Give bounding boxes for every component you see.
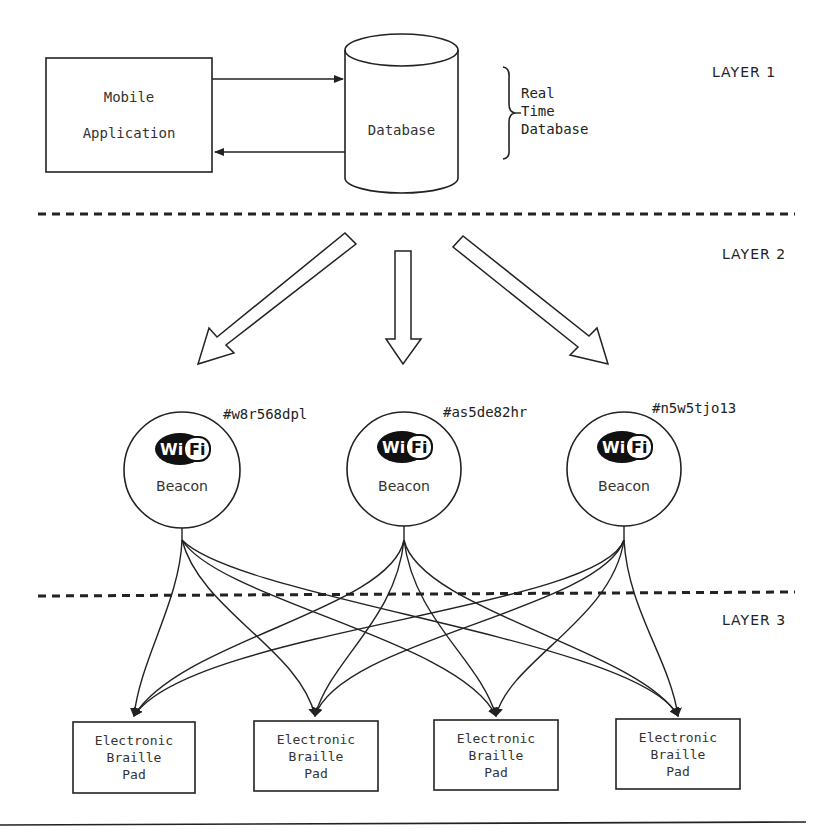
block-arrow-center [386,251,421,364]
brace-label-line3: Database [521,120,588,138]
mobile-app-line1: Mobile [104,79,155,115]
brace-label-line2: Time [521,102,588,120]
brace-label-line1: Real [521,84,588,102]
layer-1-label: LAYER 1 [712,64,776,80]
mobile-application-label: Mobile Application [46,58,212,172]
wifi-icon: Wi Fi [154,432,216,466]
beacon-pad-connections [134,526,678,716]
wifi-icon: Wi Fi [376,430,438,464]
braille-pad-4: Electronic Braille Pad [616,719,740,789]
beacon-id-2: #as5de82hr [443,404,527,420]
beacon-id-1: #w8r568dpl [223,406,307,422]
bottom-rule [0,822,806,825]
beacon-circle-1 [124,412,240,528]
braille-pad-2: Electronic Braille Pad [254,721,378,791]
mobile-app-line2: Application [83,115,176,151]
braille-pad-3: Electronic Braille Pad [434,720,558,790]
layer-divider-2 [38,592,795,596]
block-arrow-right [453,236,608,364]
beacon-label-2: Beacon [346,478,462,494]
layer-2-label: LAYER 2 [722,246,786,262]
block-arrow-left [198,233,356,364]
wifi-icon: Wi Fi [596,430,658,464]
svg-text:Fi: Fi [631,438,647,457]
svg-text:Wi: Wi [602,438,625,457]
svg-text:Fi: Fi [189,440,205,459]
beacon-label-3: Beacon [566,478,682,494]
curly-brace [503,67,515,159]
svg-text:Wi: Wi [382,438,405,457]
braille-pad-1: Electronic Braille Pad [73,722,195,793]
svg-text:Wi: Wi [160,440,183,459]
svg-text:Fi: Fi [411,438,427,457]
beacon-id-3: #n5w5tjo13 [652,400,736,416]
layer-3-label: LAYER 3 [722,612,786,628]
database-label: Database [345,112,458,148]
beacon-label-1: Beacon [124,478,240,494]
real-time-database-label: Real Time Database [521,84,588,138]
